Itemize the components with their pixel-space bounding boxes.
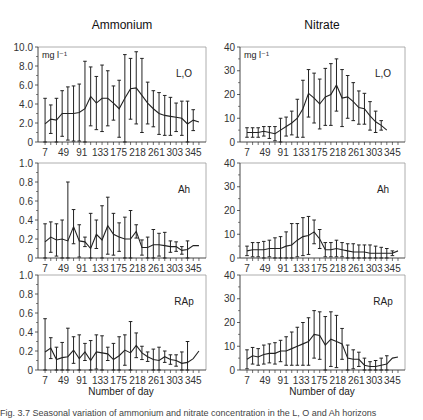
svg-text:218: 218 — [329, 147, 346, 158]
svg-text:261: 261 — [348, 263, 365, 274]
horizon-label: Ah — [377, 184, 389, 195]
svg-text:0: 0 — [229, 137, 235, 148]
x-axis-label-left: Number of day — [61, 386, 181, 397]
svg-text:175: 175 — [311, 147, 328, 158]
horizon-label: Ah — [178, 184, 190, 195]
svg-text:133: 133 — [293, 263, 310, 274]
svg-text:91: 91 — [278, 375, 290, 386]
svg-text:175: 175 — [311, 375, 328, 386]
svg-text:133: 133 — [293, 147, 310, 158]
panel-4: 01020304074991133175218261303345Ah — [224, 158, 405, 275]
svg-text:91: 91 — [76, 263, 88, 274]
svg-text:49: 49 — [58, 375, 70, 386]
svg-text:303: 303 — [166, 263, 183, 274]
svg-text:49: 49 — [58, 263, 70, 274]
svg-text:1.0: 1.0 — [19, 270, 33, 281]
svg-text:7: 7 — [244, 263, 250, 274]
svg-text:303: 303 — [166, 375, 183, 386]
svg-text:10: 10 — [224, 341, 236, 352]
figure-caption: Fig. 3.7 Seasonal variation of ammonium … — [0, 408, 423, 418]
svg-text:0: 0 — [27, 253, 33, 264]
svg-text:30: 30 — [224, 293, 236, 304]
svg-text:175: 175 — [311, 263, 328, 274]
chart-grid: 02.04.06.08.010.074991133175218261303345… — [0, 0, 423, 420]
svg-text:345: 345 — [384, 147, 401, 158]
unit-label: mg l⁻¹ — [244, 50, 269, 60]
svg-text:91: 91 — [278, 147, 290, 158]
svg-text:49: 49 — [260, 147, 272, 158]
svg-text:7: 7 — [42, 263, 48, 274]
svg-text:40: 40 — [224, 42, 236, 53]
svg-text:30: 30 — [224, 181, 236, 192]
svg-text:218: 218 — [129, 263, 146, 274]
svg-text:0: 0 — [229, 253, 235, 264]
panel-2: 01020304074991133175218261303345L,Omg l⁻… — [224, 42, 405, 159]
svg-text:10: 10 — [224, 229, 236, 240]
svg-text:218: 218 — [329, 375, 346, 386]
svg-text:303: 303 — [366, 147, 383, 158]
svg-text:49: 49 — [260, 375, 272, 386]
svg-text:7: 7 — [42, 375, 48, 386]
svg-text:91: 91 — [278, 263, 290, 274]
svg-text:133: 133 — [92, 375, 109, 386]
svg-text:49: 49 — [260, 263, 272, 274]
svg-text:49: 49 — [58, 147, 70, 158]
svg-text:345: 345 — [185, 375, 202, 386]
svg-text:261: 261 — [148, 147, 165, 158]
svg-text:133: 133 — [92, 263, 109, 274]
svg-text:7: 7 — [42, 147, 48, 158]
svg-text:10.0: 10.0 — [14, 42, 34, 53]
unit-label: mg l⁻¹ — [42, 50, 67, 60]
svg-text:175: 175 — [110, 375, 127, 386]
panel-1: 02.04.06.08.010.074991133175218261303345… — [14, 42, 206, 159]
svg-text:175: 175 — [110, 263, 127, 274]
svg-text:261: 261 — [148, 263, 165, 274]
svg-text:303: 303 — [366, 375, 383, 386]
svg-text:2.0: 2.0 — [19, 118, 33, 129]
svg-text:1.0: 1.0 — [19, 158, 33, 169]
svg-text:218: 218 — [129, 147, 146, 158]
svg-text:6.0: 6.0 — [19, 80, 33, 91]
svg-text:0: 0 — [229, 365, 235, 376]
svg-text:345: 345 — [384, 375, 401, 386]
svg-text:0.6: 0.6 — [19, 196, 33, 207]
svg-text:30: 30 — [224, 65, 236, 76]
svg-text:303: 303 — [166, 147, 183, 158]
horizon-label: RAp — [174, 296, 194, 307]
svg-text:0: 0 — [27, 137, 33, 148]
svg-text:133: 133 — [92, 147, 109, 158]
svg-text:0.4: 0.4 — [19, 215, 33, 226]
svg-text:10: 10 — [224, 113, 236, 124]
svg-text:0.2: 0.2 — [19, 346, 33, 357]
svg-text:91: 91 — [76, 375, 88, 386]
svg-text:40: 40 — [224, 270, 236, 281]
horizon-label: RAp — [373, 296, 393, 307]
svg-text:20: 20 — [224, 89, 236, 100]
svg-text:0.4: 0.4 — [19, 327, 33, 338]
svg-text:4.0: 4.0 — [19, 99, 33, 110]
svg-text:261: 261 — [148, 375, 165, 386]
svg-text:0.8: 0.8 — [19, 289, 33, 300]
svg-text:20: 20 — [224, 317, 236, 328]
svg-text:218: 218 — [329, 263, 346, 274]
svg-text:345: 345 — [185, 263, 202, 274]
svg-text:20: 20 — [224, 205, 236, 216]
svg-text:7: 7 — [244, 375, 250, 386]
svg-text:133: 133 — [293, 375, 310, 386]
svg-text:261: 261 — [348, 147, 365, 158]
horizon-label: L,O — [176, 68, 192, 79]
svg-text:8.0: 8.0 — [19, 61, 33, 72]
svg-text:40: 40 — [224, 158, 236, 169]
svg-text:303: 303 — [366, 263, 383, 274]
svg-text:345: 345 — [384, 263, 401, 274]
horizon-label: L,O — [375, 68, 391, 79]
svg-text:0.2: 0.2 — [19, 234, 33, 245]
panel-5: 00.20.40.60.81.074991133175218261303345R… — [19, 270, 206, 387]
svg-text:0.8: 0.8 — [19, 177, 33, 188]
svg-text:261: 261 — [348, 375, 365, 386]
x-axis-label-right: Number of day — [262, 386, 382, 397]
panel-3: 00.20.40.60.81.074991133175218261303345A… — [19, 158, 206, 275]
panel-6: 01020304074991133175218261303345RAp — [224, 270, 405, 387]
svg-text:7: 7 — [244, 147, 250, 158]
svg-text:91: 91 — [76, 147, 88, 158]
